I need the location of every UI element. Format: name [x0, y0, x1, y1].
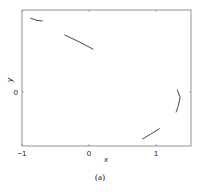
x-tick-label: −1 [17, 149, 27, 158]
curve-top-left [31, 18, 42, 21]
y-tick-label: 0 [14, 88, 19, 97]
x-axis-label: x [103, 155, 109, 164]
curve-middle [65, 35, 93, 49]
y-axis-label: y [5, 77, 14, 83]
tick-labels: −1010 [14, 88, 159, 158]
chart: −1010 x y (a) [0, 0, 199, 192]
plot-frame [22, 10, 191, 146]
curve-bottom [143, 129, 160, 139]
series-group [31, 18, 180, 139]
ticks [22, 10, 191, 146]
figure-caption: (a) [95, 172, 105, 182]
x-tick-label: 0 [87, 149, 92, 158]
x-tick-label: 1 [154, 149, 159, 158]
curve-right-arc [176, 90, 180, 112]
